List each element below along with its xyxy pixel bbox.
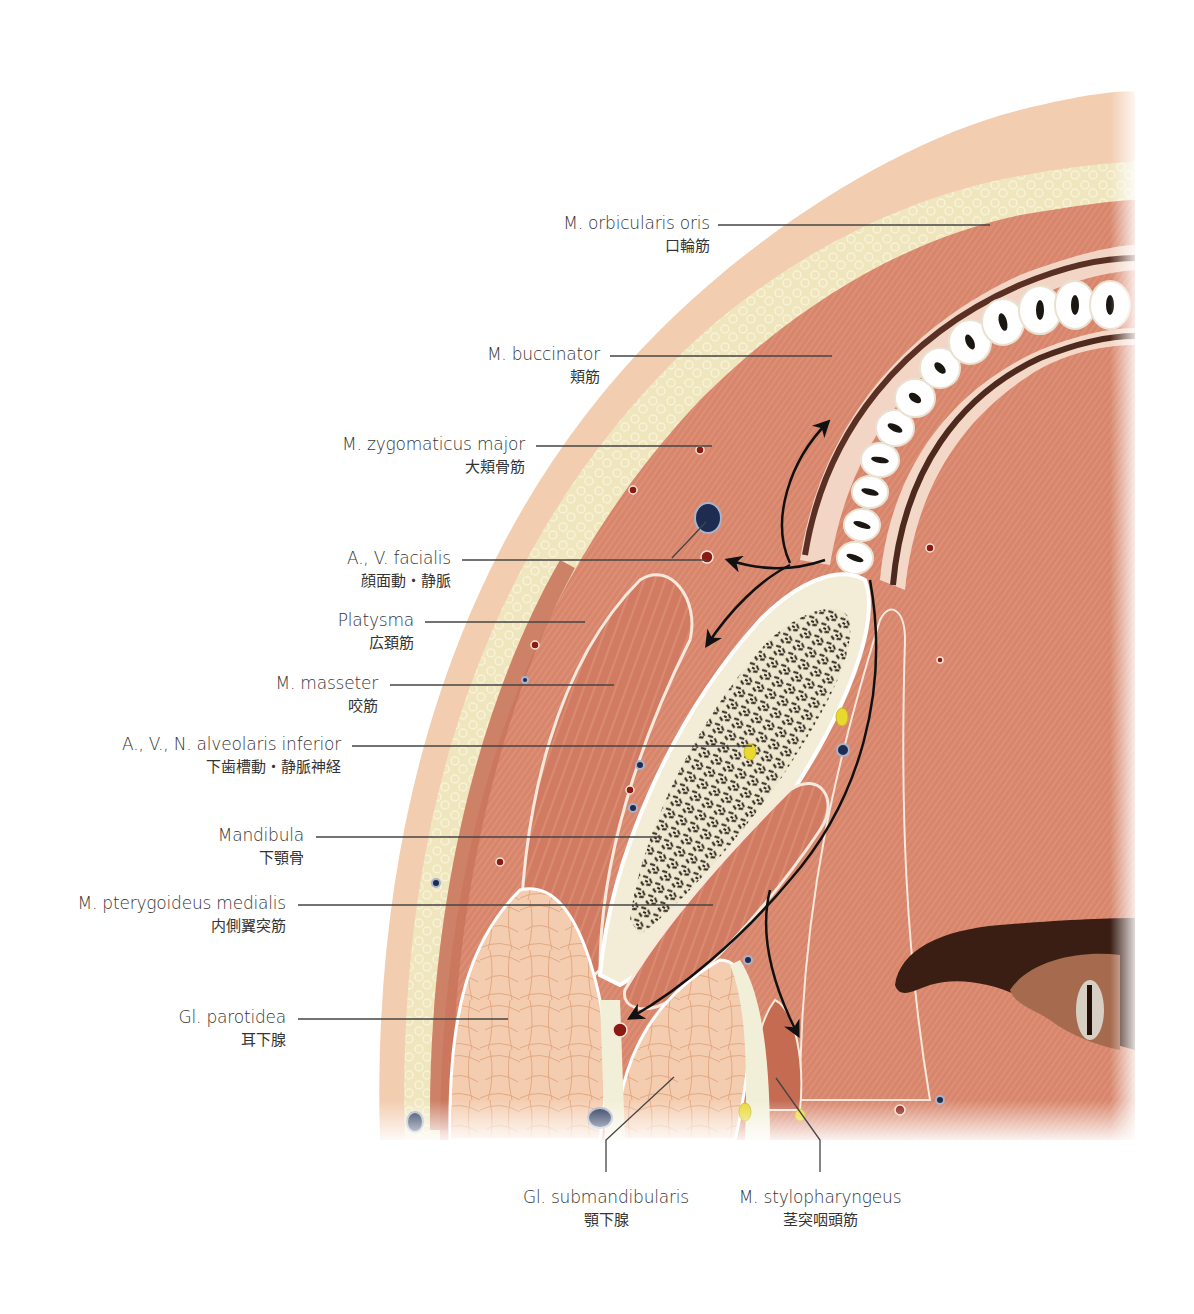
- label-jp: 顎下腺: [506, 1212, 706, 1229]
- label-facialis: A., V. facialis 顔面動・静脈: [347, 549, 451, 590]
- label-jp: 口輪筋: [563, 238, 710, 255]
- glottis: [1087, 985, 1092, 1035]
- label-jp: 大頬骨筋: [342, 459, 525, 476]
- label-jp: 頬筋: [487, 369, 600, 386]
- label-pterygoideus-medialis: M. pterygoideus medialis 内側翼突筋: [77, 894, 286, 935]
- anatomical-illustration: [0, 0, 1194, 1314]
- label-submandibularis: Gl. submandibularis 顎下腺: [506, 1188, 706, 1229]
- label-jp: 下顎骨: [218, 850, 304, 867]
- label-jp: 広頚筋: [338, 635, 414, 652]
- label-en: M. masseter: [275, 674, 378, 694]
- label-orbicularis-oris: M. orbicularis oris 口輪筋: [563, 214, 710, 255]
- label-en: Gl. submandibularis: [506, 1188, 706, 1208]
- label-mandibula: Mandibula 下顎骨: [218, 826, 304, 867]
- label-stylopharyngeus: M. stylopharyngeus 茎突咽頭筋: [720, 1188, 920, 1229]
- label-en: M. zygomaticus major: [342, 435, 525, 455]
- label-en: Platysma: [338, 611, 414, 631]
- label-en: M. buccinator: [487, 345, 600, 365]
- label-masseter: M. masseter 咬筋: [275, 674, 378, 715]
- label-en: A., V., N. alveolaris inferior: [122, 735, 341, 755]
- label-zygomaticus-major: M. zygomaticus major 大頬骨筋: [342, 435, 525, 476]
- label-en: M. stylopharyngeus: [720, 1188, 920, 1208]
- label-jp: 耳下腺: [179, 1032, 286, 1049]
- label-buccinator: M. buccinator 頬筋: [487, 345, 600, 386]
- bottom-fade: [370, 1100, 1150, 1145]
- label-jp: 内側翼突筋: [77, 918, 286, 935]
- label-en: M. orbicularis oris: [563, 214, 710, 234]
- label-en: Gl. parotidea: [179, 1008, 286, 1028]
- label-jp: 茎突咽頭筋: [720, 1212, 920, 1229]
- label-jp: 下歯槽動・静脈神経: [122, 759, 341, 776]
- label-parotidea: Gl. parotidea 耳下腺: [179, 1008, 286, 1049]
- label-jp: 顔面動・静脈: [347, 573, 451, 590]
- label-platysma: Platysma 広頚筋: [338, 611, 414, 652]
- label-en: Mandibula: [218, 826, 304, 846]
- right-fade: [1110, 80, 1140, 1150]
- label-alveolaris-inferior: A., V., N. alveolaris inferior 下歯槽動・静脈神経: [122, 735, 341, 776]
- label-en: M. pterygoideus medialis: [77, 894, 286, 914]
- label-en: A., V. facialis: [347, 549, 451, 569]
- label-jp: 咬筋: [275, 698, 378, 715]
